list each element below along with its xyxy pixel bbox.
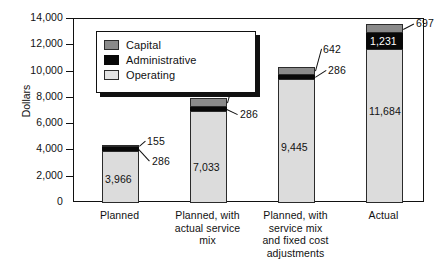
x-axis-label-line: mix [164, 234, 252, 247]
annotation-leader-line [403, 23, 414, 30]
stacked-bar-chart: 02,0004,0006,0008,00010,00012,00014,000 … [0, 0, 444, 275]
y-axis-title: Dollars [20, 66, 32, 136]
y-axis-tick-label: 8,000 [36, 90, 63, 102]
bar-value-administrative: 1,231 [370, 35, 397, 47]
plot-area: 3,9667,0339,44511,6841,231 1552866422866… [73, 18, 424, 202]
bar-segment-operating[interactable] [190, 111, 227, 203]
bar-segment-operating[interactable] [366, 49, 403, 203]
bar-value-operating: 9,445 [281, 141, 308, 153]
legend-swatch-administrative [104, 55, 119, 65]
annotation-leader-line [138, 149, 150, 162]
x-axis-label-line: Planned, with [164, 209, 252, 222]
annotation-capital-1: 155 [147, 135, 165, 147]
x-axis-label-line: Actual [340, 209, 428, 222]
legend-label: Capital [126, 40, 161, 51]
x-axis-label-line: Planned [76, 209, 164, 222]
annotation-leader-line [315, 70, 327, 78]
x-axis-label-line: actual service [164, 222, 252, 235]
legend-item-administrative[interactable]: Administrative [104, 53, 246, 67]
x-axis-label-1: Planned [76, 209, 164, 222]
legend-item-operating[interactable]: Operating [104, 68, 246, 82]
bar-value-operating: 3,966 [105, 173, 132, 185]
y-axis-tick-label: 10,000 [30, 64, 63, 76]
y-axis-tick-label: 4,000 [36, 142, 63, 154]
x-axis-label-3: Planned, withservice mixand fixed costad… [252, 209, 340, 259]
legend-item-capital[interactable]: Capital [104, 38, 246, 52]
annotation-capital-3: 642 [323, 43, 341, 55]
annotation-administrative-3: 286 [328, 64, 346, 76]
annotation-capital-4: 697 [416, 17, 434, 29]
legend-swatch-operating [104, 70, 119, 80]
annotation-leader-line [139, 141, 146, 147]
bar-4[interactable]: 11,6841,231 [366, 24, 403, 203]
legend-label: Administrative [126, 55, 196, 66]
bar-segment-capital[interactable] [190, 98, 227, 106]
x-axis-label-4: Actual [340, 209, 428, 222]
bar-segment-capital[interactable] [366, 24, 403, 33]
x-axis-label-line: and fixed cost [252, 234, 340, 247]
annotation-administrative-1: 286 [152, 155, 170, 167]
x-axis-label-line: adjustments [252, 247, 340, 260]
x-axis-label-line: Planned, with [252, 209, 340, 222]
annotation-administrative-2: 286 [240, 108, 258, 120]
legend-label: Operating [126, 70, 175, 81]
y-axis-tick-label: 6,000 [36, 116, 63, 128]
y-axis-tick-label: 14,000 [30, 11, 63, 23]
bar-1[interactable]: 3,966 [102, 145, 139, 203]
x-axis-label-line: service mix [252, 222, 340, 235]
y-axis-tick-label: 2,000 [36, 169, 63, 181]
bar-2[interactable]: 7,033 [190, 98, 227, 203]
bar-3[interactable]: 9,445 [278, 67, 315, 203]
x-axis-label-2: Planned, withactual servicemix [164, 209, 252, 247]
legend-swatch-capital [104, 40, 119, 50]
annotation-leader-line [227, 109, 238, 115]
bar-segment-capital[interactable] [278, 67, 315, 75]
bar-value-operating: 7,033 [193, 161, 220, 173]
y-axis-tick-label: 0 [57, 195, 63, 207]
legend: CapitalAdministrativeOperating [96, 31, 256, 93]
bar-value-operating: 11,684 [369, 105, 401, 117]
y-axis-tick-label: 12,000 [30, 37, 63, 49]
annotation-leader-line [315, 49, 322, 71]
